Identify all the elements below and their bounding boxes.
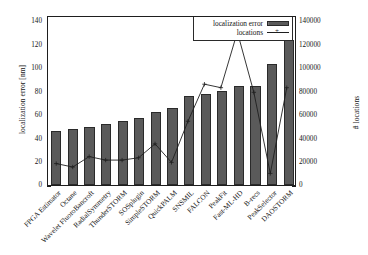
right-tick-mark [292,186,296,187]
locations-polyline [56,32,287,173]
chart-figure: localization error [nm] # locations 0204… [0,0,368,255]
plot-area [47,16,296,186]
legend-label-localization-error: localization error [213,19,263,28]
left-tick-label: 0 [2,182,42,189]
chart-legend: localization error locations [193,17,293,41]
right-tick-label: 0 [299,182,345,189]
right-axis-title: # locations [352,58,361,168]
left-tick-label: 40 [2,136,42,143]
locations-markers [54,30,289,176]
bar-swatch-icon [267,21,289,26]
right-tick-label: 120000 [299,42,345,49]
left-tick-label: 140 [2,18,42,25]
line-plus-swatch-icon [267,29,289,36]
left-tick-label: 20 [2,159,42,166]
legend-label-locations: locations [237,28,263,37]
right-tick-label: 100000 [299,65,345,72]
right-tick-label: 60000 [299,112,345,119]
left-tick-label: 60 [2,112,42,119]
right-tick-label: 20000 [299,159,345,166]
left-tick-label: 80 [2,89,42,96]
right-tick-label: 40000 [299,136,345,143]
left-tick-mark [47,186,51,187]
legend-item-locations: locations [197,28,289,37]
right-tick-label: 140000 [299,18,345,25]
left-tick-label: 100 [2,65,42,72]
right-tick-label: 80000 [299,89,345,96]
left-tick-label: 120 [2,42,42,49]
line-series-locations [48,17,295,185]
